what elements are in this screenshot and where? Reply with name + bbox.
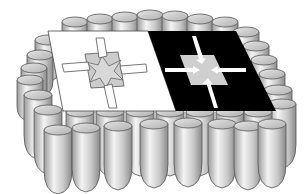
arrow-right-icon bbox=[120, 64, 147, 74]
plate-on-pillars-illustration bbox=[0, 0, 308, 194]
arrow-left-icon bbox=[62, 62, 90, 72]
arrow-right-icon bbox=[218, 68, 246, 72]
diagram-figure bbox=[0, 0, 308, 194]
arrow-left-icon bbox=[165, 68, 195, 72]
front-pillars bbox=[44, 118, 286, 194]
